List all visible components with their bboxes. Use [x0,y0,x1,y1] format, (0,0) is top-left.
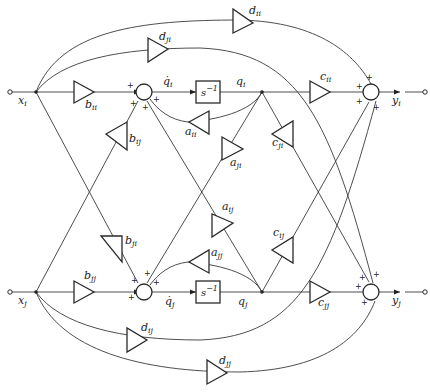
svg-text:+: + [144,269,151,278]
svg-text:+: + [373,103,380,112]
summing-junction-y-i [363,84,379,100]
label-d-jj: djj [219,354,232,368]
svg-text:+: + [142,103,149,112]
input-terminal-i [8,90,12,94]
branch-node-q-i [260,90,264,94]
integrator-j: s−1 [196,281,220,303]
label-b-ji: bji [125,234,138,248]
summing-junction-q-dot-i [136,84,152,100]
branch-node-q-j [260,290,264,294]
label-a-ii: aii [185,125,197,139]
gain-c-ii [310,81,330,103]
gain-b-ij [106,122,127,150]
label-d-ji: dji [159,30,172,44]
label-y-j: yj [391,294,401,308]
svg-text:+: + [355,282,362,291]
label-q-dot-j: q̇j [165,295,175,309]
label-d-ij: dij [141,321,154,335]
label-c-jj: cjj [318,296,330,310]
label-b-jj: bjj [84,269,97,283]
label-a-ij: aij [222,200,234,214]
label-q-j: qj [238,295,248,309]
svg-text:+: + [356,82,363,91]
label-q-i: qi [236,75,246,89]
svg-text:+: + [356,97,363,106]
svg-text:+: + [131,276,138,285]
svg-text:+: + [373,270,380,279]
summing-junction-q-dot-j [136,284,152,300]
labels: xi xj yi yj q̇i qi q̇j qj bii bjj bij bj… [18,4,401,368]
wires [12,20,423,372]
branch-node-x-i [34,90,38,94]
label-d-ii: dii [249,4,262,18]
svg-text:+: + [359,273,366,282]
label-c-ii: cii [320,70,332,84]
svg-text:+: + [366,73,373,82]
label-b-ij: bij [129,132,142,146]
integrator-i: s−1 [196,81,220,103]
label-c-ij: cij [273,226,285,240]
label-b-ii: bii [85,98,98,112]
svg-text:+: + [153,95,160,104]
label-y-i: yi [391,94,401,108]
block-diagram: s−1 s−1 xi xj yi yj q̇i qi q̇j qj bii [0,0,430,392]
input-terminal-j [8,290,12,294]
branch-node-x-j [34,290,38,294]
svg-text:+: + [128,293,135,302]
output-terminal-i [423,90,427,94]
label-q-dot-i: q̇i [163,75,173,89]
label-a-jj: ajj [211,246,223,260]
gain-a-ij [212,214,233,237]
label-x-i: xi [18,94,27,108]
gain-b-jj [74,281,94,303]
label-x-j: xj [18,294,27,308]
output-terminal-j [423,290,427,294]
sum-signs: + + + + + + + + + + + + + + + + [127,73,380,307]
svg-text:+: + [153,278,160,287]
gain-b-ji [101,236,122,262]
arrowheads [134,90,400,295]
svg-text:+: + [127,81,134,90]
gain-a-jj [189,250,209,273]
gain-c-ij [272,237,293,263]
label-a-ji: aji [230,156,242,170]
svg-text:+: + [130,99,137,108]
svg-text:+: + [361,298,368,307]
